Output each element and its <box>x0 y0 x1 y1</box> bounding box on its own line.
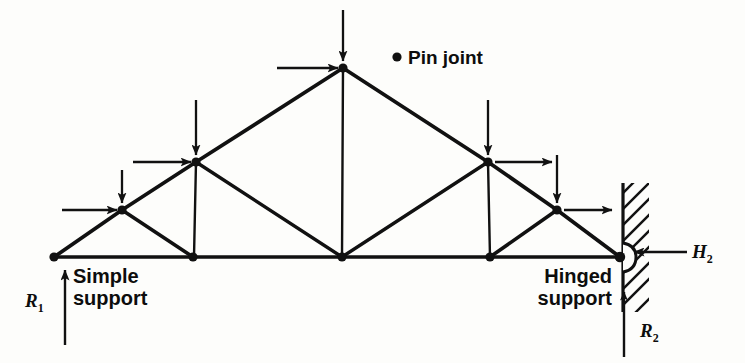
joint-right-lower-rafter-node <box>552 205 561 214</box>
pin-joint-bullet-icon <box>392 52 401 61</box>
member-left-rafter-seg-3 <box>196 68 343 162</box>
joint-left-upper-rafter-node <box>191 157 200 166</box>
member-web-diagonal-left-2 <box>196 162 342 257</box>
hinged-support-line-2: support <box>538 287 612 309</box>
reaction-R2-label: R2 <box>640 320 659 346</box>
figure-canvas: Pin joint Simplesupport Hingedsupport R1… <box>0 0 745 363</box>
member-left-rafter-seg-1 <box>54 210 122 257</box>
member-right-rafter-seg-3 <box>557 210 620 257</box>
joint-apex-node <box>338 63 347 72</box>
reaction-H2-label: H2 <box>692 241 713 267</box>
reaction-R1-label: R1 <box>25 290 44 316</box>
simple-support-line-2: support <box>73 287 147 309</box>
joint-left-lower-rafter-node <box>117 205 126 214</box>
joint-bottom-center-node <box>337 252 346 261</box>
simple-support-label: Simplesupport <box>73 266 147 309</box>
member-web-diagonal-right-1 <box>490 210 557 257</box>
hinge-pin-dot <box>615 252 625 262</box>
member-left-rafter-seg-2 <box>122 162 196 210</box>
member-web-vertical-left <box>194 162 196 257</box>
hatched-fixed-wall <box>615 168 650 322</box>
member-right-rafter-seg-2 <box>488 162 557 210</box>
hinged-support-label: Hingedsupport <box>502 266 612 309</box>
member-web-vertical-center <box>342 68 343 257</box>
joint-right-upper-rafter-node <box>483 157 492 166</box>
hinged-support-line-1: Hinged <box>544 265 612 287</box>
member-web-diagonal-left-1 <box>122 210 193 257</box>
member-web-diagonal-right-2 <box>342 162 488 257</box>
reaction-R1-symbol: R <box>25 290 38 311</box>
reaction-H2-subscript: 2 <box>707 252 713 266</box>
joint-bottom-node-3 <box>485 252 494 261</box>
reaction-R2-subscript: 2 <box>653 331 659 345</box>
reaction-H2-symbol: H <box>692 241 707 262</box>
wall-hatching <box>616 168 650 322</box>
member-right-rafter-seg-1 <box>343 68 488 162</box>
vertical-load-arrows <box>122 10 557 203</box>
member-web-vertical-right <box>488 162 490 257</box>
simple-support-line-1: Simple <box>73 265 139 287</box>
pin-joint-label: Pin joint <box>408 48 483 69</box>
joint-bottom-node-1 <box>188 252 197 261</box>
joint-left-simple-support-node <box>49 252 58 261</box>
reaction-R2-symbol: R <box>640 320 653 341</box>
reaction-R1-subscript: 1 <box>38 301 44 315</box>
